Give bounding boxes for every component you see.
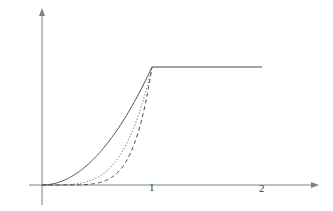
curve-solid — [42, 67, 152, 185]
x-axis-arrow-icon — [311, 182, 319, 188]
curve-dashed — [42, 67, 152, 185]
y-axis-arrow-icon — [39, 8, 45, 16]
plot-figure: 1 2 — [0, 0, 333, 211]
curve-dotted — [42, 67, 152, 185]
plot-canvas — [0, 0, 333, 211]
x-tick-label-2: 2 — [259, 183, 265, 194]
curves-group — [42, 67, 262, 185]
x-tick-label-1: 1 — [149, 182, 155, 193]
